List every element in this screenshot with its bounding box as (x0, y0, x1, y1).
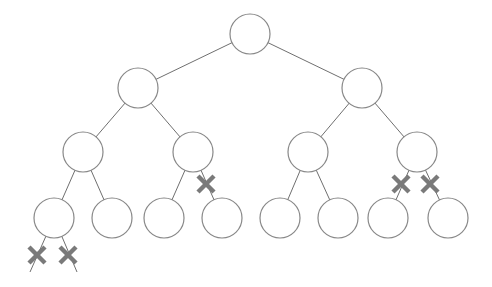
tree-node (260, 198, 300, 238)
tree-node (202, 198, 242, 238)
tree-node (428, 198, 468, 238)
tree-node (173, 132, 213, 172)
tree-node (288, 132, 328, 172)
tree-nodes (34, 14, 468, 238)
tree-node (118, 68, 158, 108)
tree-node (92, 198, 132, 238)
tree-node (63, 132, 103, 172)
tree-diagram (0, 0, 492, 287)
cross-icon (198, 176, 214, 192)
tree-node (397, 132, 437, 172)
tree-node (318, 198, 358, 238)
tree-node (230, 14, 270, 54)
cross-icon (29, 247, 45, 263)
tree-node (34, 198, 74, 238)
tree-node (342, 68, 382, 108)
tree-node (144, 198, 184, 238)
cross-icon (422, 176, 438, 192)
cross-icon (60, 247, 76, 263)
tree-node (368, 198, 408, 238)
